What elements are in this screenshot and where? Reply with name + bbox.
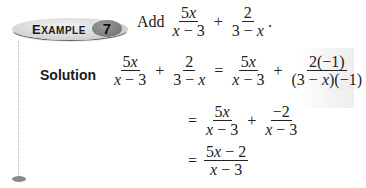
denominator: x − 3 xyxy=(230,71,266,88)
numerator: −2 xyxy=(271,103,292,121)
numerator: 5x xyxy=(121,53,140,71)
problem-verb: Add xyxy=(137,13,165,31)
denominator: x − 3 xyxy=(112,71,148,88)
fraction: 5x x − 3 xyxy=(230,53,266,88)
solution-line-3: = 5x − 2 x − 3 xyxy=(183,143,250,178)
denominator: x − 3 xyxy=(171,22,207,39)
fraction: 2(−1) (3 − x)(−1) xyxy=(290,53,364,88)
numerator: 2 xyxy=(242,4,254,22)
denominator: (3 − x)(−1) xyxy=(290,71,364,88)
fraction: −2 x − 3 xyxy=(263,103,299,138)
plus-operator: + xyxy=(214,13,223,31)
denominator: x − 3 xyxy=(208,161,244,178)
fraction: 2 3 − x xyxy=(230,4,266,39)
numerator: 5x xyxy=(179,4,198,22)
denominator: 3 − x xyxy=(230,22,266,39)
denominator: 3 − x xyxy=(171,71,207,88)
solution-line-2: = 5x x − 3 + −2 x − 3 xyxy=(183,103,301,138)
period: . xyxy=(268,13,272,31)
numerator: 5x xyxy=(213,103,232,121)
example-number: 7 xyxy=(92,20,122,37)
fraction: 2 3 − x xyxy=(171,53,207,88)
numerator: 5x − 2 xyxy=(204,143,248,161)
problem-statement: Add 5x x − 3 + 2 3 − x . xyxy=(137,4,272,39)
denominator: x − 3 xyxy=(263,121,299,138)
numerator: 5x xyxy=(239,53,258,71)
margin-rule-end-cap xyxy=(12,176,26,182)
fraction: 5x x − 3 xyxy=(112,53,148,88)
equals-sign: = xyxy=(188,152,197,170)
plus-operator: + xyxy=(155,62,164,80)
numerator: 2 xyxy=(183,53,195,71)
fraction: 5x x − 3 xyxy=(204,103,240,138)
plus-operator: + xyxy=(247,112,256,130)
solution-line-1: 5x x − 3 + 2 3 − x = 5x x − 3 + 2(−1) (3… xyxy=(110,53,366,88)
equals-sign: = xyxy=(188,112,197,130)
example-badge: EXAMPLE 7 xyxy=(12,18,128,40)
numerator: 2(−1) xyxy=(307,53,347,71)
solution-label: Solution xyxy=(40,67,96,83)
equals-sign: = xyxy=(214,62,223,80)
denominator: x − 3 xyxy=(204,121,240,138)
plus-operator: + xyxy=(273,62,282,80)
fraction: 5x − 2 x − 3 xyxy=(204,143,248,178)
example-number-oval: 7 xyxy=(92,20,122,37)
fraction: 5x x − 3 xyxy=(171,4,207,39)
example-label: EXAMPLE xyxy=(32,22,86,37)
margin-dotted-rule xyxy=(18,41,19,177)
